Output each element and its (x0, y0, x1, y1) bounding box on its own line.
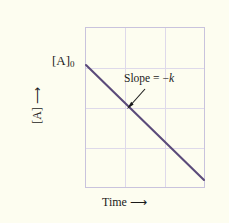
x-axis-label-text: Time (102, 195, 127, 209)
slope-annotation: Slope = −k (124, 73, 174, 85)
y-axis-arrow-icon: ⟶ (30, 88, 44, 107)
slope-annotation-symbol: k (169, 72, 174, 84)
slope-annotation-prefix: Slope = − (124, 72, 169, 84)
y-axis-label: [A]⟶ (31, 86, 43, 126)
y-axis-label-text: [A] (30, 107, 44, 124)
initial-concentration-label: [A]0 (52, 54, 75, 69)
x-axis-arrow-icon: ⟶ (127, 195, 146, 209)
initial-concentration-text: [A] (52, 53, 70, 68)
initial-concentration-subscript: 0 (70, 59, 75, 69)
x-axis-label: Time⟶ (102, 196, 146, 208)
kinetics-figure: [A]0 Slope = −k Time⟶ [A]⟶ (0, 0, 229, 223)
